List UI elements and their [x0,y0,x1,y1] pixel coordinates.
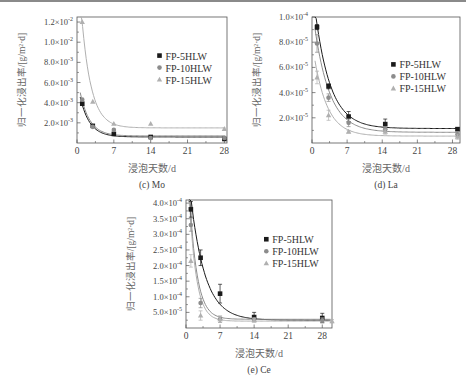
y-tick-label: 1.0×10-4 [279,11,308,22]
y-tick-label: 2.5×10-4 [153,244,182,255]
data-point [112,132,117,137]
data-point [198,255,203,260]
legend-label: FP-10HLW [399,71,446,82]
y-axis-title: 归一化浸出率/[g/m²·d] [16,33,27,128]
data-point [198,301,203,306]
x-tick-label: 28 [448,146,458,156]
x-axis-title: 浸泡天数/d [235,347,283,359]
y-axis-title: 归一化浸出率/[g/m²·d] [251,33,262,128]
x-tick-label: 28 [220,146,230,156]
data-point [148,136,153,141]
x-axis-title: 浸泡天数/d [362,162,410,174]
legend-label: FP-10HLW [166,63,213,74]
data-point [80,19,85,24]
legend-marker [391,86,396,91]
y-tick-label: 4.0×10-3 [44,97,73,108]
data-point [383,122,388,127]
y-tick-label: 1.2×10-2 [44,16,73,27]
chart-ce: 071421285.0×10-51.0×10-41.5×10-42.0×10-4… [125,197,335,376]
x-tick-label: 14 [146,146,156,156]
data-point [112,128,117,133]
y-tick-label: 1.0×10-4 [153,291,182,302]
data-point [80,101,85,106]
y-tick-label: 5.0×10-5 [153,306,182,317]
y-tick-label: 1.0×10-2 [44,36,73,47]
data-point [90,125,95,130]
x-tick-label: 0 [184,331,189,341]
chart-mo: 071421282.0×10-34.0×10-36.0×10-38.0×10-3… [16,16,229,191]
y-tick-label: 4.0×10-4 [153,197,182,208]
data-point [315,41,320,46]
legend-label: FP-15HLW [399,83,446,94]
legend-label: FP-10HLW [272,246,319,257]
legend-marker [391,62,396,67]
legend-marker [391,74,396,79]
data-point [198,313,203,318]
y-tick-label: 1.5×10-4 [153,275,182,286]
figure-canvas: 071421282.0×10-34.0×10-36.0×10-38.0×10-3… [0,0,466,385]
legend-marker [157,77,162,82]
x-tick-label: 14 [249,331,259,341]
legend-marker [264,260,269,265]
data-point [326,84,331,89]
legend-label: FP-5HLW [272,234,314,245]
y-tick-label: 2.0×10-3 [44,117,73,128]
legend-marker [157,53,162,58]
x-tick-label: 21 [413,146,423,156]
y-tick-label: 2.0×10-5 [279,112,308,123]
data-point [455,127,460,132]
x-tick-label: 28 [318,331,328,341]
data-point [314,75,319,80]
data-point [218,291,223,296]
chart-caption: (d) La [374,180,398,191]
data-point [346,121,351,126]
y-tick-label: 3.5×10-4 [153,213,182,224]
legend-marker [264,249,269,254]
data-point [326,95,331,100]
data-point [188,258,193,263]
y-tick-label: 3.0×10-4 [153,228,182,239]
y-tick-label: 8.0×10-3 [44,56,73,67]
chart-la: 071421282.0×10-54.0×10-56.0×10-58.0×10-5… [251,11,460,191]
x-tick-label: 7 [111,146,116,156]
data-point [189,207,194,212]
x-tick-label: 7 [345,146,350,156]
legend-label: FP-5HLW [399,59,441,70]
data-point [148,121,153,126]
y-tick-label: 6.0×10-5 [279,61,308,72]
x-tick-label: 7 [218,331,223,341]
legend-marker [157,65,162,70]
data-point [315,25,320,30]
y-axis-title: 归一化浸出率/[g/m²·d] [125,217,136,312]
y-tick-label: 8.0×10-5 [279,36,308,47]
x-tick-label: 14 [377,146,387,156]
x-tick-label: 21 [283,331,293,341]
legend-label: FP-15HLW [272,258,319,269]
y-tick-label: 2.0×10-4 [153,260,182,271]
data-point [320,318,325,323]
x-tick-label: 0 [310,146,315,156]
x-axis-title: 浸泡天数/d [128,162,176,174]
legend-marker [264,237,269,242]
data-point [80,97,85,102]
legend-label: FP-5HLW [166,51,208,62]
data-point [346,114,351,119]
x-tick-label: 0 [75,146,80,156]
data-point [222,136,227,141]
chart-caption: (e) Ce [247,365,270,376]
chart-caption: (c) Mo [139,180,165,191]
legend-label: FP-15HLW [166,75,213,86]
y-tick-label: 6.0×10-3 [44,77,73,88]
x-tick-label: 21 [183,146,193,156]
y-tick-label: 4.0×10-5 [279,87,308,98]
data-point [222,126,227,131]
data-point [189,223,194,228]
